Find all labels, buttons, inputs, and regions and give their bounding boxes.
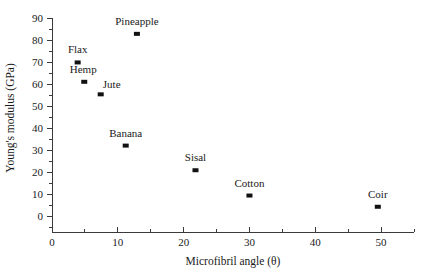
scatter-chart-figure: 0102030405060708090 01020304050 FlaxHemp… bbox=[0, 0, 440, 273]
y-axis-title: Young's modulus (GPa) bbox=[4, 63, 17, 173]
x-tick-label: 50 bbox=[376, 236, 388, 248]
x-tick-group: 01020304050 bbox=[49, 227, 414, 248]
y-tick-label: 90 bbox=[32, 12, 44, 24]
y-tick-label: 60 bbox=[32, 78, 44, 90]
x-tick-label: 0 bbox=[49, 236, 55, 248]
y-tick-label: 50 bbox=[32, 100, 44, 112]
y-tick-label: 0 bbox=[38, 210, 44, 222]
data-point-marker bbox=[134, 32, 140, 36]
y-tick-label: 20 bbox=[32, 166, 44, 178]
data-point-label: Sisal bbox=[185, 151, 206, 163]
data-point-label: Pineapple bbox=[115, 15, 158, 27]
data-point-marker bbox=[375, 205, 381, 209]
data-point-marker bbox=[81, 80, 87, 84]
x-tick-label: 40 bbox=[310, 236, 322, 248]
data-point-label: Flax bbox=[68, 43, 88, 55]
data-point-label: Cotton bbox=[234, 177, 264, 189]
data-point-marker bbox=[123, 144, 129, 148]
y-tick-group: 0102030405060708090 bbox=[32, 12, 52, 227]
data-point-label: Banana bbox=[109, 127, 142, 139]
data-point-label: Coir bbox=[368, 188, 388, 200]
data-point-marker bbox=[98, 92, 104, 96]
data-point-marker bbox=[192, 168, 198, 172]
x-axis-title: Microfibril angle (θ) bbox=[186, 255, 281, 268]
data-point-label: Hemp bbox=[70, 63, 97, 75]
y-tick-label: 80 bbox=[32, 34, 44, 46]
plot-area: 0102030405060708090 01020304050 FlaxHemp… bbox=[0, 0, 440, 273]
data-point-label: Jute bbox=[103, 78, 121, 90]
x-tick-label: 20 bbox=[178, 236, 190, 248]
y-tick-label: 30 bbox=[32, 144, 44, 156]
y-tick-label: 10 bbox=[32, 188, 44, 200]
data-point-marker bbox=[246, 194, 252, 198]
y-tick-label: 40 bbox=[32, 122, 44, 134]
x-tick-label: 10 bbox=[112, 236, 124, 248]
y-tick-label: 70 bbox=[32, 56, 44, 68]
data-point-group: FlaxHempJuteBananaPineappleSisalCottonCo… bbox=[68, 15, 388, 209]
x-tick-label: 30 bbox=[244, 236, 256, 248]
